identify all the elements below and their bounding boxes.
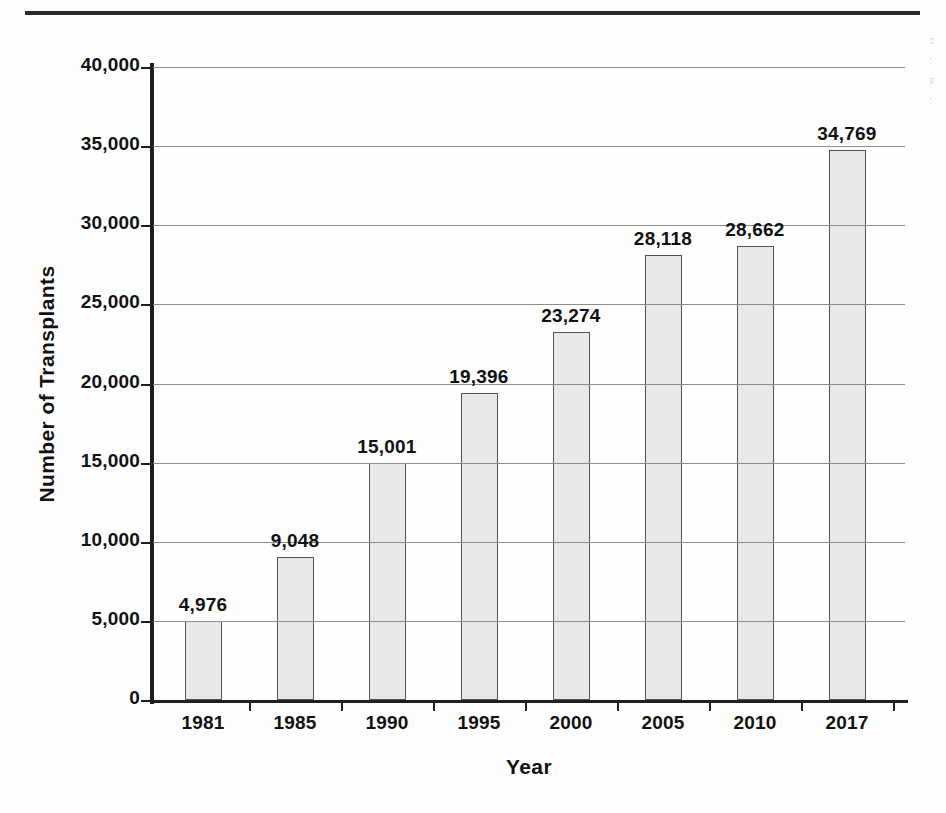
x-axis-tick [893, 700, 895, 711]
y-axis-tick [141, 304, 153, 306]
y-axis-tick-label: 35,000 [44, 133, 140, 155]
bar-value-label: 34,769 [787, 123, 907, 145]
y-axis-tick-label: 0 [44, 687, 140, 709]
x-axis-tick-label: 2017 [787, 712, 907, 734]
bar [369, 463, 406, 700]
y-axis-tick [141, 463, 153, 465]
bar [277, 557, 314, 700]
bar [645, 255, 682, 700]
y-axis-tick-label: 40,000 [44, 54, 140, 76]
bar-value-label: 9,048 [235, 530, 355, 552]
x-axis-tick [433, 700, 435, 711]
y-axis-tick [141, 225, 153, 227]
y-axis-tick [141, 146, 153, 148]
y-axis-tick [141, 542, 153, 544]
y-axis-title: Number of Transplants [35, 254, 59, 514]
bar-chart-figure: 05,00010,00015,00020,00025,00030,00035,0… [0, 0, 946, 813]
y-axis-tick [141, 700, 153, 702]
bar [737, 246, 774, 700]
y-axis-tick [141, 621, 153, 623]
y-axis-tick [141, 67, 153, 69]
x-axis-tick [341, 700, 343, 711]
y-axis-tick-label: 5,000 [44, 608, 140, 630]
bar-value-label: 4,976 [143, 594, 263, 616]
bar [829, 150, 866, 700]
y-axis-tick-label: 30,000 [44, 212, 140, 234]
x-axis-tick [525, 700, 527, 711]
bar-value-label: 19,396 [419, 366, 539, 388]
x-axis-tick [801, 700, 803, 711]
bar-value-label: 23,274 [511, 305, 631, 327]
y-axis-tick [141, 384, 153, 386]
bar-value-label: 28,662 [695, 219, 815, 241]
x-axis-tick [249, 700, 251, 711]
x-axis-tick [709, 700, 711, 711]
bar-value-label: 15,001 [327, 436, 447, 458]
x-axis-tick [617, 700, 619, 711]
x-axis-title: Year [153, 755, 905, 779]
y-axis-tick-label: 10,000 [44, 529, 140, 551]
x-axis-line [150, 700, 908, 703]
bar [185, 621, 222, 700]
bar [553, 332, 590, 700]
bar [461, 393, 498, 700]
page-background: c t s t 05,00010,00015,00020,00025,00030… [0, 0, 946, 813]
